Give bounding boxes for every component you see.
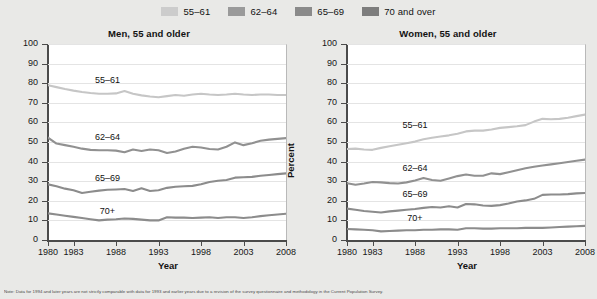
y-axis-tick-label: 60 — [4, 116, 38, 126]
legend-swatch-70-over — [362, 7, 379, 16]
y-axis-tick-label: 40 — [303, 156, 337, 166]
y-axis-tick — [341, 142, 346, 143]
y-axis-tick — [341, 122, 346, 123]
series-layer — [48, 44, 286, 240]
y-axis-tick-label: 0 — [4, 234, 38, 244]
x-axis-tick — [347, 241, 348, 246]
series-line-70+ — [48, 213, 286, 220]
x-axis-tick — [458, 241, 459, 246]
y-axis-tick-label: 0 — [303, 234, 337, 244]
y-axis-tick-label: 50 — [4, 136, 38, 146]
x-axis-tick-label: 1980 — [337, 247, 357, 257]
x-axis-tick-label: 2008 — [575, 247, 595, 257]
series-inline-label: 70+ — [407, 213, 422, 223]
x-axis-tick — [201, 241, 202, 246]
x-axis-tick — [48, 241, 49, 246]
y-axis-tick-label: 90 — [4, 58, 38, 68]
y-axis-tick — [341, 240, 346, 241]
y-axis-tick-label: 70 — [303, 97, 337, 107]
y-axis-tick-label: 90 — [303, 58, 337, 68]
y-axis-tick — [341, 181, 346, 182]
y-axis-tick — [341, 220, 346, 221]
legend-label-65-69: 65–69 — [317, 6, 344, 17]
y-axis-tick — [42, 220, 47, 221]
y-axis-tick — [42, 122, 47, 123]
x-axis-tick — [286, 241, 287, 246]
series-line-62-64 — [48, 138, 286, 153]
x-axis-tick — [543, 241, 544, 246]
series-line-70+ — [347, 226, 585, 231]
y-axis-tick — [42, 162, 47, 163]
legend-item: 70 and over — [362, 6, 435, 17]
x-axis-women — [346, 240, 586, 242]
y-axis-tick — [341, 64, 346, 65]
y-axis-tick — [42, 44, 47, 45]
x-axis-tick-label: 1983 — [362, 247, 382, 257]
y-axis-tick-label: 80 — [4, 77, 38, 87]
x-axis-tick-label: 1998 — [490, 247, 510, 257]
chart-legend: 55–61 62–64 65–69 70 and over — [0, 6, 597, 17]
x-axis-tick-label: 1980 — [38, 247, 58, 257]
y-axis-tick — [341, 162, 346, 163]
x-axis-tick-label: 1983 — [63, 247, 83, 257]
y-axis-tick-label: 70 — [4, 97, 38, 107]
legend-label-55-61: 55–61 — [183, 6, 210, 17]
chart-panel-women: Women, 55 and older Percent Year 0102030… — [303, 28, 593, 276]
x-axis-tick-label: 2003 — [233, 247, 253, 257]
y-axis-tick-label: 40 — [4, 156, 38, 166]
y-axis-tick — [341, 83, 346, 84]
y-axis-tick-label: 30 — [4, 175, 38, 185]
legend-swatch-55-61 — [161, 7, 178, 16]
y-axis-tick-label: 30 — [303, 175, 337, 185]
y-axis-tick — [42, 181, 47, 182]
y-axis-tick — [42, 103, 47, 104]
chart-note: Note: Data for 1994 and later years are … — [4, 289, 594, 299]
series-line-62-64 — [347, 160, 585, 185]
chart-panel-men: Men, 55 and older Percent Year 010203040… — [4, 28, 294, 276]
legend-label-62-64: 62–64 — [250, 6, 277, 17]
y-axis-tick — [42, 83, 47, 84]
y-axis-tick-label: 10 — [303, 214, 337, 224]
y-axis-tick — [341, 44, 346, 45]
x-axis-tick — [244, 241, 245, 246]
x-axis-men — [47, 240, 287, 242]
y-axis-tick-label: 60 — [303, 116, 337, 126]
x-axis-tick — [585, 241, 586, 246]
y-axis-tick-label: 50 — [303, 136, 337, 146]
series-line-65-69 — [347, 193, 585, 213]
series-inline-label: 55–61 — [402, 120, 427, 130]
series-inline-label: 55–61 — [95, 75, 120, 85]
y-axis-tick — [341, 103, 346, 104]
y-axis-tick — [341, 201, 346, 202]
x-axis-tick-label: 1988 — [106, 247, 126, 257]
series-inline-label: 70+ — [100, 206, 115, 216]
y-axis-tick-label: 10 — [4, 214, 38, 224]
x-axis-tick — [159, 241, 160, 246]
x-axis-tick-label: 1993 — [447, 247, 467, 257]
y-axis-tick — [42, 240, 47, 241]
y-axis-tick-label: 20 — [303, 195, 337, 205]
y-axis-label-women: Percent — [285, 143, 296, 178]
series-inline-label: 65–69 — [95, 173, 120, 183]
chart-page: 55–61 62–64 65–69 70 and over Men, 55 an… — [0, 0, 597, 299]
series-layer — [347, 44, 585, 240]
x-axis-tick — [415, 241, 416, 246]
series-line-55-61 — [48, 85, 286, 97]
y-axis-tick-label: 20 — [4, 195, 38, 205]
legend-label-70-over: 70 and over — [384, 6, 435, 17]
x-axis-tick-label: 2008 — [276, 247, 296, 257]
y-axis-tick-label: 80 — [303, 77, 337, 87]
y-axis-tick — [42, 64, 47, 65]
x-axis-tick — [116, 241, 117, 246]
x-axis-tick-label: 1988 — [405, 247, 425, 257]
series-line-55-61 — [347, 115, 585, 150]
y-axis-tick — [42, 201, 47, 202]
series-inline-label: 62–64 — [95, 132, 120, 142]
y-axis-tick — [42, 142, 47, 143]
legend-item: 65–69 — [295, 6, 344, 17]
x-axis-tick-label: 1993 — [148, 247, 168, 257]
chart-title-women: Women, 55 and older — [303, 28, 593, 39]
y-axis-tick-label: 100 — [303, 38, 337, 48]
legend-item: 62–64 — [228, 6, 277, 17]
y-axis-tick-label: 100 — [4, 38, 38, 48]
